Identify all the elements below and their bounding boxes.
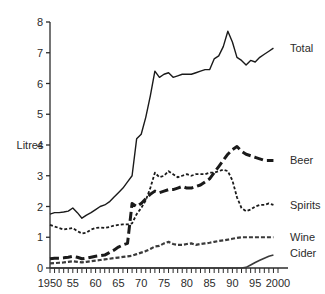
x-tick-label: 90 [226,277,238,289]
y-tick-label: 7 [37,47,43,59]
series-label-beer: Beer [290,154,314,166]
x-tick-label: 85 [203,277,215,289]
series-label-wine: Wine [290,231,315,243]
x-tick-label: 2000 [266,277,290,289]
y-tick-label: 1 [37,231,43,243]
x-tick-label: 1950 [38,277,62,289]
x-tick-label: 70 [135,277,147,289]
series-line-spirits [50,170,273,234]
y-tick-label: 5 [37,108,43,120]
x-tick-label: 95 [249,277,261,289]
series-labels: TotalBeerSpiritsWineCider [290,42,321,259]
y-tick-label: 0 [37,262,43,274]
y-tick-label: 8 [37,16,43,28]
series-label-cider: Cider [290,247,317,259]
series-label-spirits: Spirits [290,199,321,211]
y-axis-title: Litres [17,139,44,151]
x-tick-label: 60 [89,277,101,289]
chart-canvas: 012345678 19505560657075808590952000 Tot… [0,0,325,294]
y-axis-title-text: Litres [17,139,44,151]
x-axis: 19505560657075808590952000 [38,268,290,289]
series-lines [50,31,273,268]
series-label-total: Total [290,42,313,54]
series-line-total [50,31,273,218]
x-tick-label: 55 [67,277,79,289]
x-tick-label: 80 [181,277,193,289]
y-tick-label: 3 [37,170,43,182]
x-tick-label: 75 [158,277,170,289]
y-tick-label: 6 [37,78,43,90]
alcohol-consumption-chart: 012345678 19505560657075808590952000 Tot… [0,0,325,294]
y-tick-label: 2 [37,201,43,213]
x-tick-label: 65 [112,277,124,289]
